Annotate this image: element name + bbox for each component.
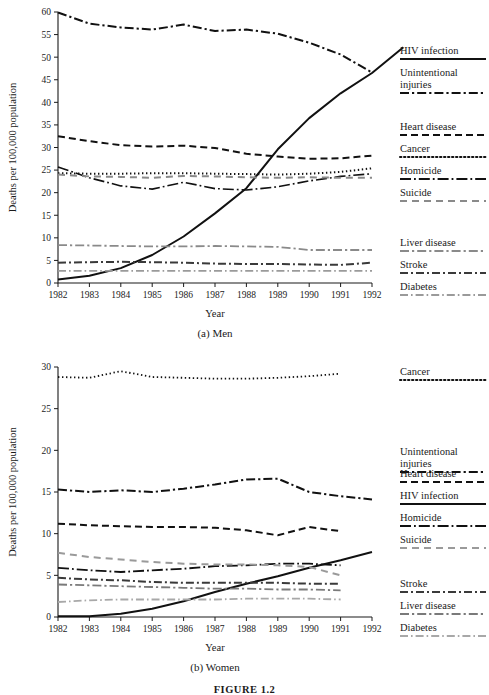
legend-label: Stroke — [400, 259, 428, 270]
y-tick-label: 5 — [46, 571, 51, 581]
x-tick-label: 1987 — [206, 624, 225, 634]
legend-label: Diabetes — [400, 622, 437, 633]
y-tick-label: 40 — [42, 98, 52, 108]
y-tick-label: 0 — [46, 612, 51, 622]
x-tick-label: 1992 — [363, 624, 382, 634]
series-line — [58, 599, 341, 602]
x-tick-label: 1984 — [111, 624, 130, 634]
y-tick-label: 10 — [42, 529, 52, 539]
y-tick-label: 45 — [42, 75, 52, 85]
line-chart-men: 0510152025303540455055601982198319841985… — [0, 0, 489, 346]
line-chart-women: 0510152025301982198319841985198619871988… — [0, 346, 489, 692]
series-line — [58, 13, 372, 73]
legend-label: Heart disease — [400, 121, 457, 132]
x-tick-label: 1990 — [300, 624, 319, 634]
y-tick-label: 20 — [42, 188, 52, 198]
x-tick-label: 1991 — [331, 624, 350, 634]
x-tick-label: 1985 — [143, 624, 162, 634]
x-tick-label: 1986 — [174, 290, 193, 300]
y-tick-label: 25 — [42, 165, 52, 175]
x-tick-label: 1989 — [268, 290, 287, 300]
series-group — [58, 371, 372, 616]
legend-label: Suicide — [400, 187, 432, 198]
x-tick-label: 1986 — [174, 624, 193, 634]
x-axis-title: Year — [205, 308, 225, 319]
x-tick-label: 1983 — [80, 624, 99, 634]
series-group — [58, 13, 403, 280]
series-line — [58, 136, 372, 159]
x-tick-label: 1987 — [206, 290, 225, 300]
legend-label: Liver disease — [400, 600, 456, 611]
legend: HIV infectionUnintentionalinjuriesHeart … — [400, 45, 486, 295]
y-tick-label: 15 — [42, 211, 52, 221]
y-tick-label: 10 — [42, 233, 52, 243]
chart-panel-women: 0510152025301982198319841985198619871988… — [0, 346, 489, 692]
series-line — [58, 245, 372, 250]
x-tick-label: 1988 — [237, 624, 256, 634]
x-tick-label: 1992 — [363, 290, 382, 300]
series-line — [58, 168, 372, 174]
y-tick-label: 25 — [42, 404, 52, 414]
series-line — [58, 262, 372, 265]
x-tick-label: 1990 — [300, 290, 319, 300]
legend-label: Homicide — [400, 165, 442, 176]
legend-label: injuries — [400, 79, 432, 90]
series-line — [58, 524, 341, 536]
y-tick-label: 30 — [42, 362, 52, 372]
x-tick-label: 1982 — [49, 624, 68, 634]
y-axis-title: Deaths per 100,000 population — [7, 427, 18, 557]
legend-label: Suicide — [400, 534, 432, 545]
y-tick-label: 30 — [42, 143, 52, 153]
series-line — [58, 585, 341, 591]
series-line — [58, 371, 341, 379]
legend-label: Homicide — [400, 512, 442, 523]
y-tick-label: 55 — [42, 30, 52, 40]
series-line — [58, 175, 372, 178]
y-tick-label: 50 — [42, 53, 52, 63]
legend-label: Unintentional — [400, 446, 458, 457]
y-tick-label: 60 — [42, 7, 52, 17]
legend-label: HIV infection — [400, 490, 459, 501]
legend-label: Cancer — [400, 143, 430, 154]
legend-label: Stroke — [400, 578, 428, 589]
legend: CancerUnintentionalinjuriesHeart disease… — [400, 366, 486, 636]
x-axis-title: Year — [205, 642, 225, 653]
series-line — [58, 47, 403, 279]
y-tick-label: 15 — [42, 487, 52, 497]
legend-label: Cancer — [400, 366, 430, 377]
x-tick-label: 1983 — [80, 290, 99, 300]
series-line — [58, 578, 341, 584]
x-tick-label: 1982 — [49, 290, 68, 300]
y-tick-label: 20 — [42, 446, 52, 456]
y-tick-label: 35 — [42, 120, 52, 130]
legend-label: HIV infection — [400, 45, 459, 56]
series-line — [58, 479, 372, 500]
figure-label: FIGURE 1.2 — [0, 684, 489, 695]
x-tick-label: 1985 — [143, 290, 162, 300]
x-tick-label: 1991 — [331, 290, 350, 300]
panel-caption: (b) Women — [190, 661, 240, 674]
legend-label: Unintentional — [400, 67, 458, 78]
legend-label: Liver disease — [400, 237, 456, 248]
legend-label: Heart disease — [400, 468, 457, 479]
legend-label: Diabetes — [400, 281, 437, 292]
y-axis-title: Deaths per 100,000 population — [7, 82, 18, 212]
x-tick-label: 1988 — [237, 290, 256, 300]
x-tick-label: 1984 — [111, 290, 130, 300]
x-tick-label: 1989 — [268, 624, 287, 634]
y-tick-label: 5 — [46, 256, 51, 266]
chart-panel-men: 0510152025303540455055601982198319841985… — [0, 0, 489, 346]
panel-caption: (a) Men — [197, 327, 233, 340]
y-tick-label: 0 — [46, 278, 51, 288]
